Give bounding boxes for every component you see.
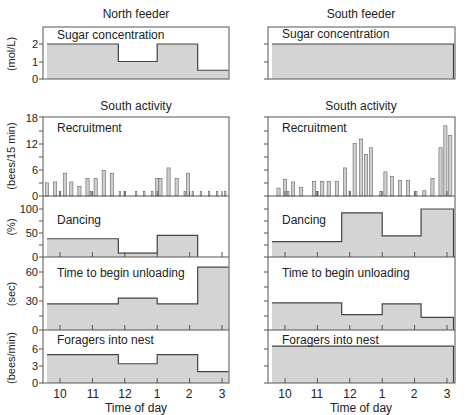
foragers-into-nest-south-feeder-panel	[272, 346, 453, 383]
svg-text:0: 0	[32, 324, 38, 336]
svg-text:0: 0	[32, 251, 38, 263]
svg-text:3: 3	[219, 387, 226, 401]
xlabel-north: Time of day	[105, 401, 167, 415]
bee-foraging-figure: North feeder South feeder South activity…	[0, 0, 472, 415]
svg-text:3: 3	[32, 360, 38, 372]
svg-text:2: 2	[411, 387, 418, 401]
ylabel-unloading: (sec)	[5, 282, 17, 306]
panel-label-sugar-north: Sugar concentration	[57, 28, 164, 42]
panel-label-recruitment-north: Recruitment	[57, 121, 122, 135]
panel-label-sugar-south: Sugar concentration	[282, 27, 389, 41]
dancing-north-feeder-panel	[47, 235, 198, 257]
foragers-into-nest-north-feeder-panel	[47, 355, 228, 383]
svg-text:10: 10	[53, 387, 67, 401]
ylabel-dancing: (%)	[5, 218, 17, 235]
svg-text:1: 1	[154, 387, 161, 401]
svg-text:60: 60	[26, 266, 38, 278]
svg-text:100: 100	[20, 203, 38, 215]
time-to-begin-unloading-south-feeder-panel	[272, 303, 453, 330]
panel-label-unloading-north: Time to begin unloading	[57, 266, 185, 280]
svg-text:1: 1	[32, 56, 38, 68]
chart-panels	[39, 27, 455, 383]
x-tick-labels-south: 10 11 12 1 2 3	[278, 387, 450, 401]
svg-text:0: 0	[32, 73, 38, 85]
panel-label-dancing-south: Dancing	[282, 213, 326, 227]
svg-text:11: 11	[311, 387, 324, 401]
x-tick-labels-north: 10 11 12 1 2 3	[53, 387, 225, 401]
svg-text:12: 12	[118, 387, 132, 401]
svg-text:6: 6	[32, 164, 38, 176]
svg-text:3: 3	[444, 387, 451, 401]
svg-text:12: 12	[343, 387, 357, 401]
ylabel-recruitment: (bees/15 min)	[5, 122, 17, 189]
panel-label-foragers-south: Foragers into nest	[282, 333, 379, 347]
panel-label-recruitment-south: Recruitment	[282, 121, 347, 135]
svg-text:2: 2	[186, 387, 193, 401]
svg-text:1: 1	[379, 387, 386, 401]
recruitment-north-feeder-panel	[45, 168, 226, 196]
sugar-concentration-north-feeder-panel	[47, 44, 228, 79]
svg-text:12: 12	[26, 138, 38, 150]
panel-label-foragers-north: Foragers into nest	[57, 333, 154, 347]
ylabel-foragers: (bees/min)	[5, 332, 17, 384]
panel-label-dancing-north: Dancing	[57, 213, 101, 227]
svg-text:0: 0	[32, 190, 38, 202]
north-feeder-title: North feeder	[103, 7, 170, 21]
south-activity-title-left: South activity	[100, 99, 171, 113]
panel-label-unloading-south: Time to begin unloading	[282, 266, 410, 280]
svg-text:6: 6	[32, 343, 38, 355]
svg-text:10: 10	[278, 387, 292, 401]
svg-text:2: 2	[32, 38, 38, 50]
svg-text:30: 30	[26, 295, 38, 307]
xlabel-south: Time of day	[330, 401, 392, 415]
svg-text:11: 11	[87, 387, 100, 401]
svg-text:0: 0	[32, 377, 38, 389]
sugar-concentration-south-feeder-panel	[272, 44, 453, 79]
svg-text:18: 18	[26, 112, 38, 124]
south-feeder-title: South feeder	[327, 7, 396, 21]
y-tick-labels: 0 1 2 0 6 12 18 0 50 100 0 30 60 0 3 6	[20, 38, 38, 389]
svg-text:50: 50	[26, 227, 38, 239]
ylabel-sugar: (mol/L)	[5, 37, 17, 71]
south-activity-title-right: South activity	[325, 99, 396, 113]
recruitment-south-feeder-panel	[277, 126, 452, 196]
